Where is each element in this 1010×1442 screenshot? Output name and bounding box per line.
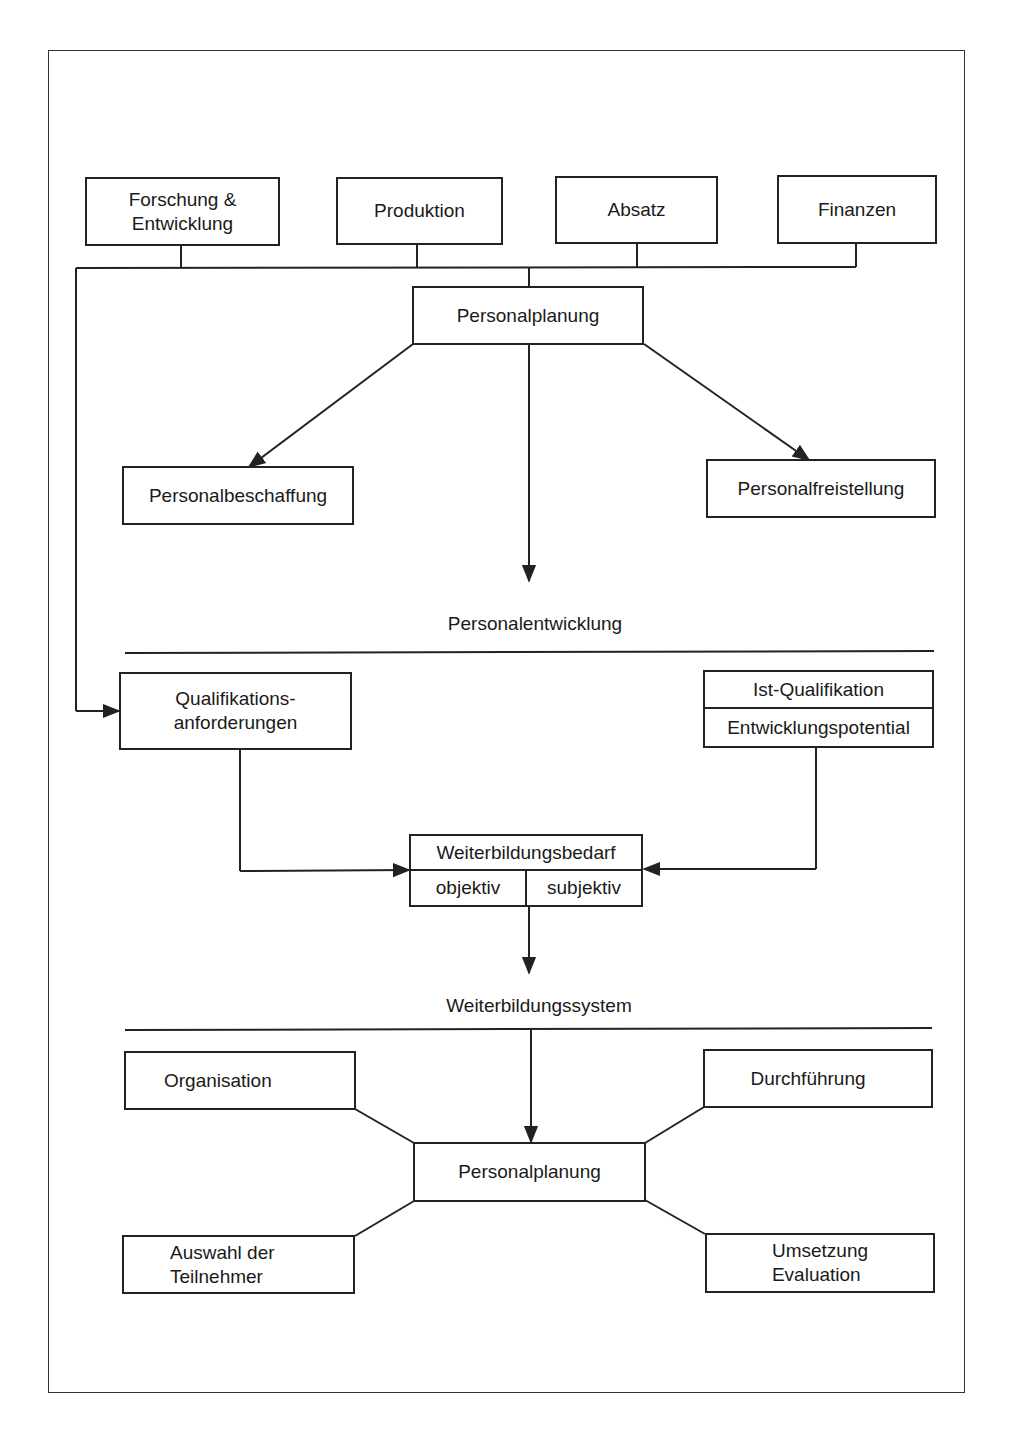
node-personalplanung-bottom[interactable]: Personalplanung <box>413 1142 646 1202</box>
cell-objektiv: objektiv <box>411 871 527 905</box>
ist-qualifikation-row: Ist-Qualifikation <box>705 672 932 709</box>
node-weiterbildungsbedarf[interactable]: Weiterbildungsbedarf objektiv subjektiv <box>409 834 643 907</box>
node-personalbeschaffung[interactable]: Personalbeschaffung <box>122 466 354 525</box>
node-organisation[interactable]: Organisation <box>124 1051 356 1110</box>
node-personalplanung-top[interactable]: Personalplanung <box>412 286 644 345</box>
node-label-line1: Auswahl der <box>170 1241 275 1265</box>
node-label-line1: Umsetzung <box>772 1239 868 1263</box>
node-label-line2: Teilnehmer <box>170 1265 275 1289</box>
node-label: Durchführung <box>750 1067 865 1091</box>
node-durchfuehrung[interactable]: Durchführung <box>703 1049 933 1108</box>
node-label-line2: anforderungen <box>174 711 298 735</box>
node-label: Personalplanung <box>457 304 600 328</box>
department-label: Absatz <box>607 198 665 222</box>
node-ist-qualifikation[interactable]: Ist-Qualifikation Entwicklungspotential <box>703 670 934 748</box>
node-auswahl-teilnehmer[interactable]: Auswahl der Teilnehmer <box>122 1235 355 1294</box>
node-label-line1: Qualifikations- <box>174 687 298 711</box>
node-label: Personalbeschaffung <box>149 484 327 508</box>
entwicklungspotential-label: Entwicklungspotential <box>727 717 910 739</box>
section-label-personalentwicklung: Personalentwicklung <box>335 613 735 635</box>
department-finance[interactable]: Finanzen <box>777 175 937 244</box>
node-umsetzung-evaluation[interactable]: Umsetzung Evaluation <box>705 1233 935 1293</box>
node-personalfreistellung[interactable]: Personalfreistellung <box>706 459 936 518</box>
weiterbildungsbedarf-title-row: Weiterbildungsbedarf <box>411 836 641 871</box>
section-label-weiterbildungssystem: Weiterbildungssystem <box>339 995 739 1017</box>
node-label-line2: Evaluation <box>772 1263 868 1287</box>
weiterbildungsbedarf-columns: objektiv subjektiv <box>411 871 641 905</box>
weiterbildungsbedarf-title: Weiterbildungsbedarf <box>436 842 615 864</box>
node-label: Personalplanung <box>458 1160 601 1184</box>
department-label-line1: Forschung & <box>129 188 237 212</box>
department-label: Finanzen <box>818 198 896 222</box>
entwicklungspotential-row: Entwicklungspotential <box>705 709 932 746</box>
department-production[interactable]: Produktion <box>336 177 503 245</box>
node-label: Personalfreistellung <box>738 477 905 501</box>
cell-subjektiv: subjektiv <box>527 871 641 905</box>
department-sales[interactable]: Absatz <box>555 176 718 244</box>
department-research-development[interactable]: Forschung & Entwicklung <box>85 177 280 246</box>
node-label: Organisation <box>164 1069 272 1093</box>
node-qualifikationsanforderungen[interactable]: Qualifikations- anforderungen <box>119 672 352 750</box>
department-label: Produktion <box>374 199 465 223</box>
department-label-line2: Entwicklung <box>129 212 237 236</box>
ist-qualifikation-label: Ist-Qualifikation <box>753 679 884 701</box>
